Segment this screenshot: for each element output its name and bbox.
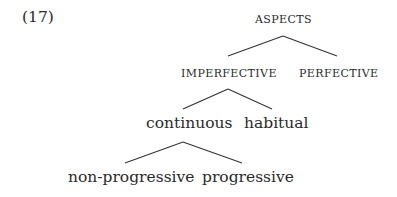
node-perfective: PERFECTIVE — [299, 68, 378, 79]
tree-branches — [0, 0, 397, 197]
branch-continuous-nonprogressive — [125, 142, 183, 163]
branch-continuous-progressive — [183, 142, 242, 163]
node-aspects: ASPECTS — [255, 14, 312, 25]
branch-aspects-imperfective — [228, 36, 283, 56]
node-habitual: habitual — [244, 116, 309, 132]
node-imperfective: IMPERFECTIVE — [181, 68, 277, 79]
node-continuous: continuous — [146, 116, 232, 132]
branch-aspects-perfective — [283, 36, 337, 56]
branch-imperfective-continuous — [183, 89, 228, 109]
branch-imperfective-habitual — [228, 89, 272, 109]
example-number: (17) — [22, 10, 54, 26]
node-non-progressive: non-progressive — [68, 170, 195, 186]
node-progressive: progressive — [202, 170, 294, 186]
